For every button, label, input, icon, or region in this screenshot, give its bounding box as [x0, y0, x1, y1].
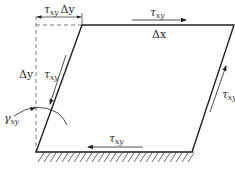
right-shear-sub: xy [228, 93, 235, 102]
top-shear-sub: xy [156, 11, 165, 20]
shear-angle-sub: xy [11, 117, 20, 126]
shear-angle-arc [14, 107, 67, 125]
width-label: Δx [152, 28, 167, 41]
shear-strain-diagram: τxyΔy τxy Δx Δy τxy τxy τxy γxy [0, 0, 235, 180]
svg-text:τxy: τxy [44, 68, 59, 82]
left-shear-sub: xy [50, 73, 59, 82]
fixed-support-hatching [36, 152, 194, 162]
bottom-shear-sub: xy [115, 137, 124, 146]
deformed-element [36, 25, 234, 152]
svg-text:τxy: τxy [150, 6, 165, 20]
height-label: Δy [19, 68, 34, 81]
offset-label-sub: xy [50, 8, 59, 17]
svg-text:τxyΔy: τxyΔy [44, 3, 76, 17]
svg-text:τxy: τxy [222, 88, 235, 102]
offset-label-dy: Δy [61, 3, 76, 16]
svg-text:τxy: τxy [109, 132, 124, 146]
